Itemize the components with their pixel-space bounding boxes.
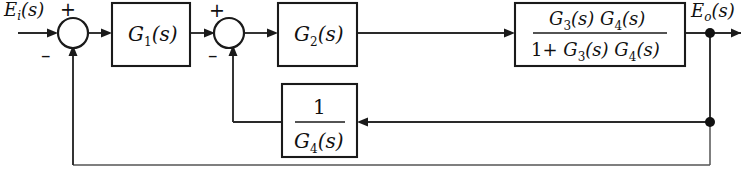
- sum2-minus-sign: –: [208, 44, 218, 66]
- summing-junction-1: [58, 18, 88, 48]
- block-g1-label: G1(s): [128, 22, 178, 49]
- feedback-denominator-label: G4(s): [294, 129, 344, 156]
- sum1-minus-sign: –: [41, 44, 51, 66]
- takeoff-node-feedback: [705, 117, 715, 127]
- wire-sum2-to-g2: [244, 29, 278, 38]
- wire-sum1-to-g1: [87, 29, 112, 38]
- input-signal-label: Ei(s): [3, 0, 44, 23]
- diagram-svg: Ei(s) + – + – Eo(s) G1(s) G2(s) G3(s) G4…: [0, 0, 741, 178]
- block-g2-label: G2(s): [294, 22, 344, 49]
- feedback-numerator-label: 1: [313, 95, 326, 119]
- output-signal-label: Eo(s): [690, 0, 735, 24]
- wire-inner-feedback-to-sum2: [229, 45, 283, 122]
- takeoff-node-output: [705, 28, 715, 38]
- block-diagram-canvas: Ei(s) + – + – Eo(s) G1(s) G2(s) G3(s) G4…: [0, 0, 741, 178]
- wire-input-to-sum1: [18, 29, 58, 38]
- sum2-plus-sign: +: [209, 0, 225, 21]
- sum1-plus-sign: +: [60, 0, 76, 20]
- wire-g2-to-plant: [357, 29, 515, 38]
- wire-g1-to-sum2: [190, 29, 215, 38]
- summing-junction-2: [214, 18, 244, 48]
